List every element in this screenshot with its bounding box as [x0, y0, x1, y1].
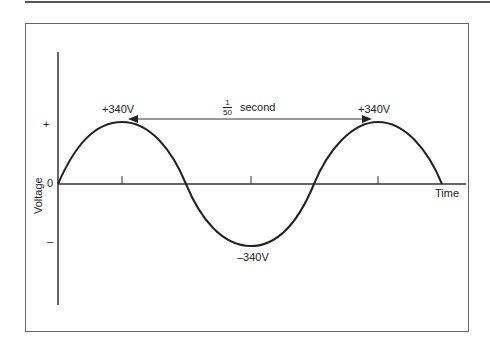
fraction-numerator: 1 [223, 98, 232, 108]
y-tick-positive: + [43, 118, 49, 130]
sine-wave-diagram [0, 0, 490, 347]
trough-label: –340V [237, 251, 269, 263]
y-tick-negative: – [47, 235, 53, 247]
period-unit-label: second [240, 101, 275, 113]
second-peak-label: +340V [358, 103, 390, 115]
fraction-denominator: 50 [223, 108, 232, 117]
period-fraction: 1 50 [223, 98, 232, 117]
y-tick-zero: 0 [47, 177, 53, 189]
y-axis-label: Voltage [32, 177, 44, 214]
first-peak-label: +340V [102, 103, 134, 115]
x-axis-label: Time [435, 187, 459, 199]
